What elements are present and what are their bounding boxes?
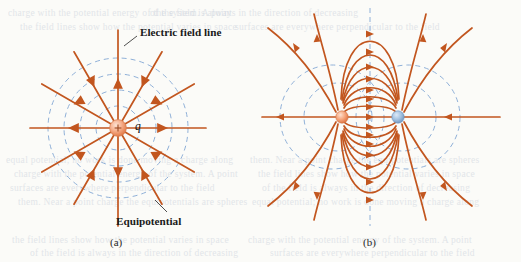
figure-canvas: charge with the potential energy of the … (0, 0, 521, 262)
field-line-label: Electric field line (140, 26, 221, 38)
bg-line: of the field is always in the direction … (150, 8, 358, 18)
bg-line: charge with the potential energy of the … (248, 235, 472, 245)
panel-caption-a: (a) (110, 236, 123, 249)
point-charge-positive-b (336, 111, 348, 123)
bg-line: surfaces are everywhere perpendicular to… (235, 22, 440, 32)
physics-figure: charge with the potential energy of the … (0, 0, 521, 262)
panel-caption-b: (b) (363, 236, 376, 249)
bg-line: surfaces are everywhere perpendicular to… (270, 248, 475, 258)
charge-sphere (392, 111, 404, 123)
bg-line: surfaces are everywhere perpendicular to… (10, 183, 215, 193)
equipotential-label: Equipotential (116, 215, 181, 227)
bg-line: them. Near a point charge the equipotent… (250, 155, 480, 165)
charge-label-q: q (135, 120, 141, 133)
point-charge-positive-a (110, 120, 127, 137)
point-charge-negative-b (392, 111, 404, 123)
bg-line: equal potential; no work is done moving … (252, 197, 479, 207)
bg-line: charge with the potential energy of the … (14, 169, 238, 179)
bg-line: of the field is always in the direction … (30, 248, 238, 258)
bg-line: equal potential; no work is done moving … (6, 155, 233, 165)
charge-sphere (336, 111, 348, 123)
bg-line: them. Near a point charge the equipotent… (18, 197, 248, 207)
